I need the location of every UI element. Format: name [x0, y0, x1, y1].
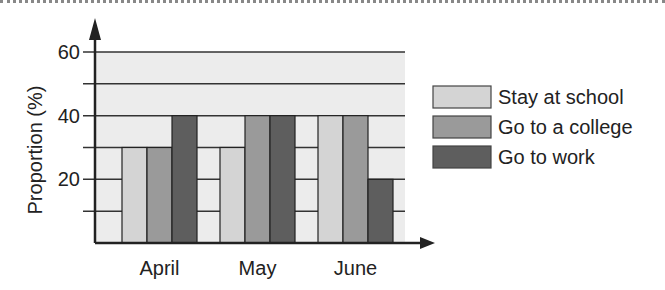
- bar: [122, 148, 147, 244]
- legend-swatch: [433, 146, 491, 168]
- x-axis-arrow-icon: [420, 237, 435, 249]
- legend-label: Stay at school: [498, 86, 624, 108]
- x-tick-label: April: [139, 257, 179, 279]
- y-tick-label: 20: [58, 168, 80, 190]
- x-tick-label: May: [239, 257, 277, 279]
- bar: [172, 116, 197, 243]
- bar-chart: AprilMayJune204060Proportion (%)Stay at …: [0, 0, 665, 290]
- bar: [245, 116, 270, 243]
- y-tick-label: 60: [58, 41, 80, 63]
- bar: [318, 116, 343, 243]
- legend-label: Go to work: [498, 146, 596, 168]
- bar: [220, 148, 245, 244]
- legend-swatch: [433, 116, 491, 138]
- bar: [343, 116, 368, 243]
- bar: [270, 116, 295, 243]
- bar: [147, 148, 172, 244]
- y-axis-label: Proportion (%): [24, 86, 46, 215]
- legend-swatch: [433, 86, 491, 108]
- y-axis-arrow-icon: [89, 18, 101, 40]
- x-tick-label: June: [334, 257, 377, 279]
- y-tick-label: 40: [58, 105, 80, 127]
- legend-label: Go to a college: [498, 116, 633, 138]
- bar: [368, 179, 393, 243]
